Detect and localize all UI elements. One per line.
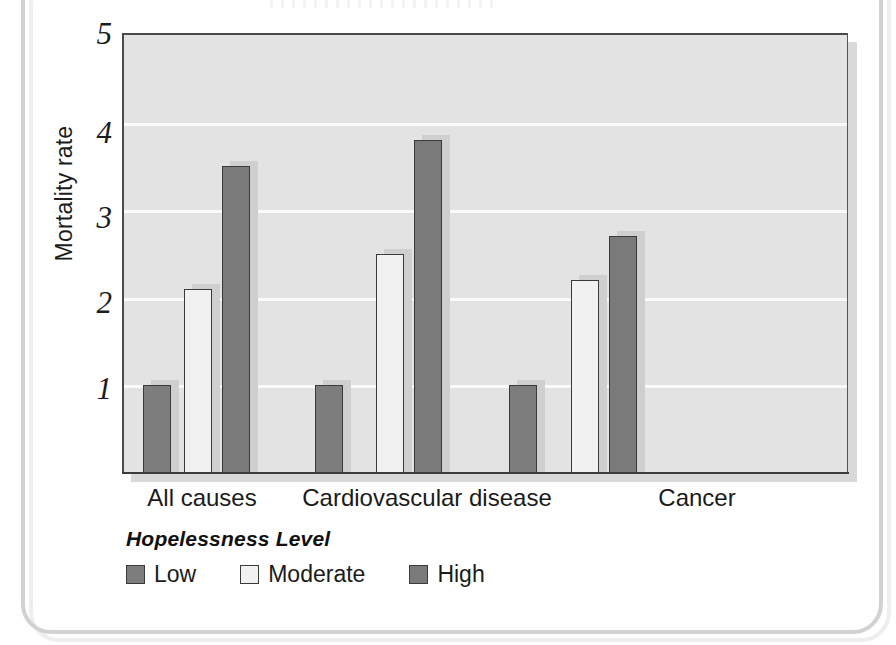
legend-swatch-low-icon — [126, 565, 145, 584]
x-label-cardiovascular-disease: Cardiovascular disease — [277, 481, 577, 515]
y-tick-label-1: 1 — [52, 373, 112, 404]
legend-swatch-high-icon — [409, 565, 428, 584]
legend-title: Hopelessness Level — [126, 527, 529, 551]
y-tick-label-3: 3 — [52, 202, 112, 233]
chart-legend: Hopelessness Level Low Moderate High — [126, 527, 529, 586]
bar-cvd-low[interactable] — [315, 385, 343, 473]
legend-swatch-moderate-icon — [240, 565, 259, 584]
bar-all-causes-high[interactable] — [222, 166, 250, 473]
scan-artifact — [270, 0, 500, 8]
x-label-cancer: Cancer — [597, 481, 797, 515]
y-tick-label-2: 2 — [52, 287, 112, 318]
bar-cancer-moderate[interactable] — [571, 280, 599, 473]
bar-cvd-high[interactable] — [414, 140, 442, 473]
legend-label-low: Low — [154, 563, 196, 586]
plot-area — [122, 33, 848, 473]
legend-items: Low Moderate High — [126, 563, 529, 586]
x-label-all-causes: All causes — [122, 481, 282, 515]
bar-all-causes-moderate[interactable] — [184, 289, 212, 473]
y-tick-label-4: 4 — [52, 117, 112, 148]
legend-label-high: High — [437, 563, 484, 586]
legend-label-moderate: Moderate — [268, 563, 365, 586]
x-axis-category-labels: All causes Cardiovascular disease Cancer — [122, 481, 849, 521]
y-tick-label-5: 5 — [52, 18, 112, 49]
x-axis-line — [122, 472, 849, 474]
legend-item-low[interactable]: Low — [126, 563, 196, 586]
legend-item-moderate[interactable]: Moderate — [240, 563, 365, 586]
figure-root: Mortality rate 5 4 3 2 1 — [0, 0, 896, 645]
bar-all-causes-low[interactable] — [143, 385, 171, 473]
y-axis-tick-labels: 5 4 3 2 1 — [46, 0, 112, 645]
bar-cancer-high[interactable] — [609, 236, 637, 473]
bar-cancer-low[interactable] — [509, 385, 537, 473]
gridline-4 — [124, 123, 847, 126]
legend-item-high[interactable]: High — [409, 563, 484, 586]
bar-cvd-moderate[interactable] — [376, 254, 404, 473]
